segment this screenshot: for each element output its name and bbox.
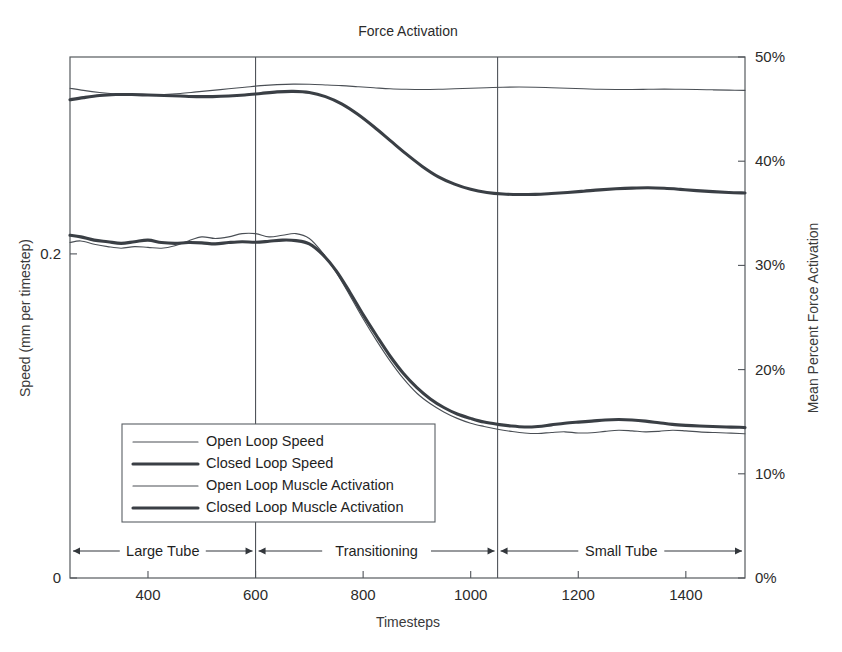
x-tick-label: 1000	[454, 586, 487, 603]
y-axis-label-right: Mean Percent Force Activation	[805, 223, 821, 414]
x-tick-label: 800	[351, 586, 376, 603]
y-tick-label-right: 30%	[755, 256, 785, 273]
page-title: Force Activation	[358, 23, 458, 39]
y-tick-label-left: 0.2	[40, 245, 61, 262]
force-activation-chart: Force Activation 40060080010001200140000…	[0, 0, 842, 652]
legend[interactable]: Open Loop SpeedClosed Loop SpeedOpen Loo…	[122, 424, 435, 522]
legend-label-0: Open Loop Speed	[206, 433, 324, 449]
y-tick-label-left: 0	[53, 569, 61, 586]
region-arrowhead-end-2	[735, 548, 742, 555]
region-arrowhead-end-1	[488, 548, 495, 555]
region-arrowhead-start-1	[259, 548, 266, 555]
legend-label-1: Closed Loop Speed	[206, 455, 333, 471]
region-arrowhead-end-0	[246, 548, 253, 555]
region-annotations: Large TubeTransitioningSmall Tube	[73, 543, 742, 559]
x-tick-label: 1200	[562, 586, 595, 603]
series-line-0	[70, 233, 745, 434]
region-arrowhead-start-2	[501, 548, 508, 555]
y-tick-label-right: 0%	[755, 569, 777, 586]
x-tick-label: 600	[243, 586, 268, 603]
series-line-2	[70, 84, 745, 95]
chart-title-group: Force Activation	[358, 23, 458, 39]
y-tick-label-right: 10%	[755, 465, 785, 482]
region-label-0: Large Tube	[126, 543, 199, 559]
y-axis-label-left: Speed (mm per timestep)	[17, 239, 33, 397]
series-line-3	[70, 91, 745, 194]
region-label-2: Small Tube	[585, 543, 658, 559]
y-tick-label-right: 20%	[755, 361, 785, 378]
data-series	[70, 84, 745, 434]
legend-label-2: Open Loop Muscle Activation	[206, 477, 394, 493]
y-tick-label-right: 50%	[755, 48, 785, 65]
x-tick-label: 1400	[669, 586, 702, 603]
series-line-1	[70, 235, 745, 427]
region-label-1: Transitioning	[335, 543, 417, 559]
y-tick-label-right: 40%	[755, 152, 785, 169]
region-arrowhead-start-0	[73, 548, 80, 555]
x-tick-label: 400	[135, 586, 160, 603]
legend-label-3: Closed Loop Muscle Activation	[206, 499, 403, 515]
x-axis-label: Timesteps	[376, 614, 440, 630]
